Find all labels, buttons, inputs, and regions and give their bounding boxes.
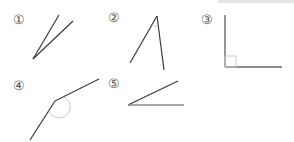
angle-3 bbox=[225, 15, 282, 67]
angle-2 bbox=[130, 16, 164, 70]
angle-5 bbox=[128, 81, 184, 105]
angle-4 bbox=[30, 79, 99, 140]
angles-diagram bbox=[0, 0, 294, 142]
right-angle-marker bbox=[225, 56, 236, 67]
angle-1 bbox=[33, 15, 73, 59]
